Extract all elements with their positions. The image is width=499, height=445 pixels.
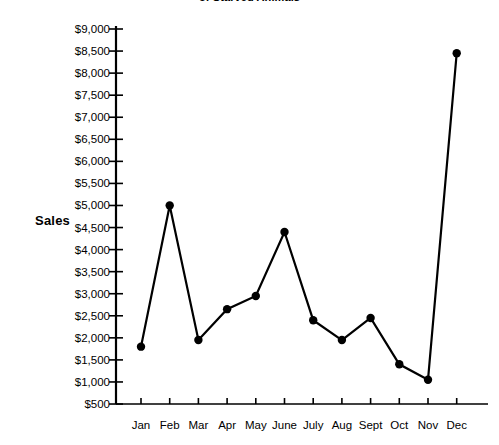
data-point-marker [137, 342, 145, 350]
data-point-marker [309, 316, 317, 324]
data-point-marker [223, 305, 231, 313]
sales-line-series [141, 53, 457, 379]
data-point-marker [395, 360, 403, 368]
plot-area [0, 0, 499, 445]
data-markers-group [137, 49, 461, 384]
sales-line-chart: of Starved Animals Sales $9,000$8,500$8,… [0, 0, 499, 445]
data-point-marker [453, 49, 461, 57]
data-point-marker [166, 201, 174, 209]
data-point-marker [338, 336, 346, 344]
data-point-marker [424, 376, 432, 384]
data-point-marker [280, 228, 288, 236]
data-point-marker [366, 314, 374, 322]
data-point-marker [194, 336, 202, 344]
data-point-marker [252, 292, 260, 300]
data-series-group [141, 53, 457, 379]
